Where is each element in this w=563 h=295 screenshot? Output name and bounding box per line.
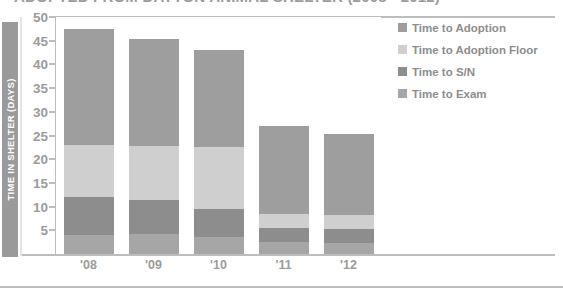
bar-group	[56, 17, 381, 254]
y-tick-label: 30	[22, 104, 48, 119]
y-tick-mark	[49, 40, 56, 42]
chart-title: ADOPTED FROM DAYTON ANIMAL SHELTER (2008…	[14, 0, 559, 8]
bar-segment[interactable]	[194, 50, 244, 147]
bar-segment[interactable]	[324, 229, 374, 243]
bar-segment[interactable]	[64, 29, 114, 145]
bar-segment[interactable]	[259, 214, 309, 228]
y-tick-label: 20	[22, 152, 48, 167]
legend-item[interactable]: Time to Exam	[398, 86, 560, 101]
bar-segment[interactable]	[194, 237, 244, 254]
bar-segment[interactable]	[324, 215, 374, 229]
x-tick-label: '09	[124, 258, 184, 272]
y-tick-label: 15	[22, 175, 48, 190]
x-tick-label: '08	[59, 258, 119, 272]
y-tick-label: 40	[22, 57, 48, 72]
y-axis-ticks: 5045403530252015105	[0, 0, 56, 295]
x-axis-line	[22, 254, 555, 256]
legend-swatch-icon	[398, 67, 407, 76]
x-tick-label: '12	[319, 258, 379, 272]
bar-segment[interactable]	[259, 126, 309, 214]
y-tick-mark	[49, 182, 56, 184]
y-tick-mark	[49, 135, 56, 137]
x-axis-labels: '08'09'10'11'12	[56, 258, 381, 280]
bar-segment[interactable]	[129, 39, 179, 146]
bar-column[interactable]	[64, 29, 114, 254]
bar-segment[interactable]	[324, 243, 374, 254]
y-tick-label: 35	[22, 81, 48, 96]
legend-item[interactable]: Time to Adoption	[398, 20, 560, 35]
plot-area	[56, 17, 381, 254]
bar-column[interactable]	[194, 50, 244, 254]
bar-segment[interactable]	[194, 209, 244, 237]
y-tick-mark	[49, 16, 56, 18]
y-tick-mark	[49, 158, 56, 160]
legend-swatch-icon	[398, 89, 407, 98]
bar-segment[interactable]	[259, 228, 309, 242]
bar-segment[interactable]	[324, 134, 374, 215]
bar-segment[interactable]	[259, 242, 309, 254]
bar-segment[interactable]	[64, 197, 114, 235]
y-tick-label: 25	[22, 128, 48, 143]
bar-column[interactable]	[259, 126, 309, 254]
legend-item[interactable]: Time to Adoption Floor	[398, 42, 560, 57]
bar-column[interactable]	[324, 134, 374, 254]
bar-segment[interactable]	[64, 235, 114, 254]
bar-segment[interactable]	[129, 234, 179, 254]
legend-swatch-icon	[398, 45, 407, 54]
chart-container: ADOPTED FROM DAYTON ANIMAL SHELTER (2008…	[0, 0, 563, 295]
legend-label: Time to S/N	[412, 66, 475, 78]
y-tick-label: 5	[22, 223, 48, 238]
y-tick-mark	[49, 206, 56, 208]
y-tick-mark	[49, 111, 56, 113]
bar-segment[interactable]	[194, 147, 244, 209]
chart-legend: Time to AdoptionTime to Adoption FloorTi…	[398, 20, 560, 108]
y-tick-label: 10	[22, 199, 48, 214]
y-tick-label: 50	[22, 10, 48, 25]
bar-segment[interactable]	[129, 200, 179, 233]
chart-bottom-border	[0, 286, 563, 288]
y-tick-mark	[49, 229, 56, 231]
x-tick-label: '10	[189, 258, 249, 272]
y-tick-mark	[49, 63, 56, 65]
legend-label: Time to Adoption Floor	[412, 44, 538, 56]
bar-segment[interactable]	[64, 145, 114, 197]
y-tick-label: 45	[22, 33, 48, 48]
y-tick-mark	[49, 87, 56, 89]
legend-label: Time to Adoption	[412, 22, 506, 34]
legend-label: Time to Exam	[412, 88, 487, 100]
legend-item[interactable]: Time to S/N	[398, 64, 560, 79]
legend-swatch-icon	[398, 23, 407, 32]
bar-segment[interactable]	[129, 146, 179, 201]
x-tick-label: '11	[254, 258, 314, 272]
bar-column[interactable]	[129, 39, 179, 254]
